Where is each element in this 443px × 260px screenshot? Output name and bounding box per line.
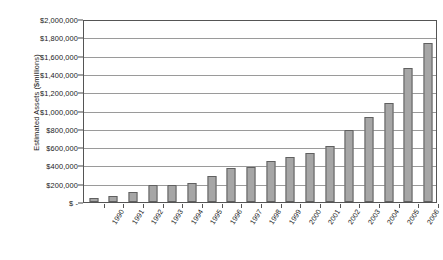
bar-slot — [379, 21, 399, 202]
x-axis-tick-label: 2004 — [386, 208, 401, 226]
y-axis-tick-label: $2,000,000 — [40, 16, 78, 25]
x-axis-tick-label: 1993 — [170, 208, 185, 226]
x-axis-tick-label: 1992 — [150, 208, 165, 226]
bar[interactable] — [325, 146, 334, 202]
x-axis-tick-mark — [438, 204, 439, 208]
x-axis-tick-label: 1994 — [189, 208, 204, 226]
bar-slot — [222, 21, 242, 202]
bar[interactable] — [188, 183, 197, 202]
y-axis-tick-label: $1,600,000 — [40, 52, 78, 61]
x-axis-tick-label: 1995 — [209, 208, 224, 226]
x-axis-tick-label: 1991 — [130, 208, 145, 226]
x-axis-tick-label: 1990 — [111, 208, 126, 226]
x-axis-tick-label: 1998 — [268, 208, 283, 226]
y-axis-tick-label: $1,800,000 — [40, 34, 78, 43]
bar[interactable] — [109, 196, 118, 202]
y-axis-tick-mark — [78, 93, 83, 94]
bar-slot — [418, 21, 438, 202]
y-axis-tick-mark — [78, 111, 83, 112]
y-axis-tick-mark — [78, 166, 83, 167]
y-axis-tick-mark — [78, 184, 83, 185]
bar-series — [84, 21, 436, 202]
x-axis-tick-label: 2001 — [327, 208, 342, 226]
bar[interactable] — [306, 153, 315, 202]
y-axis-tick-mark — [78, 203, 83, 204]
bar-slot — [182, 21, 202, 202]
bar-slot — [399, 21, 419, 202]
x-axis-tick-label: 1996 — [229, 208, 244, 226]
bar[interactable] — [424, 43, 433, 202]
bar[interactable] — [247, 167, 256, 202]
bar-chart: Estimated Assets ($millions) $2,000,000$… — [0, 0, 443, 260]
y-axis-tick-label: $800,000 — [46, 125, 78, 134]
bar[interactable] — [404, 68, 413, 202]
x-axis-tick-label: 2000 — [307, 208, 322, 226]
bar-slot — [202, 21, 222, 202]
y-axis-tick-mark — [78, 20, 83, 21]
bar-slot — [281, 21, 301, 202]
bar-slot — [359, 21, 379, 202]
bar[interactable] — [207, 176, 216, 202]
bar-slot — [241, 21, 261, 202]
x-axis-tick-label: 1999 — [288, 208, 303, 226]
bar-slot — [84, 21, 104, 202]
x-axis-tick-label: 2002 — [347, 208, 362, 226]
y-axis-tick-mark — [78, 148, 83, 149]
bar-slot — [123, 21, 143, 202]
bar[interactable] — [89, 198, 98, 202]
y-axis-tick-label: $1,400,000 — [40, 70, 78, 79]
x-axis-tick-label: 2005 — [406, 208, 421, 226]
bar[interactable] — [384, 103, 393, 202]
bar[interactable] — [148, 185, 157, 202]
y-axis-tick-label: $400,000 — [46, 162, 78, 171]
bar-slot — [163, 21, 183, 202]
bar-slot — [261, 21, 281, 202]
bar[interactable] — [345, 130, 354, 202]
bar[interactable] — [365, 117, 374, 202]
y-axis-tick-mark — [78, 74, 83, 75]
y-axis-tick-label: $1,200,000 — [40, 89, 78, 98]
bar[interactable] — [286, 157, 295, 202]
y-axis-tick-mark — [78, 129, 83, 130]
x-axis-tick-label: 1997 — [248, 208, 263, 226]
bar[interactable] — [227, 168, 236, 202]
bar[interactable] — [266, 161, 275, 202]
x-axis-tick-labels: 1990199119921993199419951996199719981999… — [83, 205, 437, 260]
bar-slot — [320, 21, 340, 202]
bar-slot — [300, 21, 320, 202]
bar-slot — [143, 21, 163, 202]
bar-slot — [340, 21, 360, 202]
y-axis-tick-label: $1,000,000 — [40, 107, 78, 116]
x-axis-tick-label: 2006 — [425, 208, 440, 226]
y-axis-tick-mark — [78, 56, 83, 57]
x-axis-tick-label: 2003 — [366, 208, 381, 226]
bar[interactable] — [168, 185, 177, 202]
bar[interactable] — [129, 192, 138, 202]
bar-slot — [104, 21, 124, 202]
y-axis-tick-label: $200,000 — [46, 180, 78, 189]
y-axis-tick-label: $600,000 — [46, 144, 78, 153]
y-axis-tick-labels: $2,000,000$1,800,000$1,600,000$1,400,000… — [22, 0, 78, 260]
plot-area — [83, 20, 437, 203]
y-axis-tick-mark — [78, 38, 83, 39]
y-axis-tick-label: $ - — [69, 199, 78, 208]
